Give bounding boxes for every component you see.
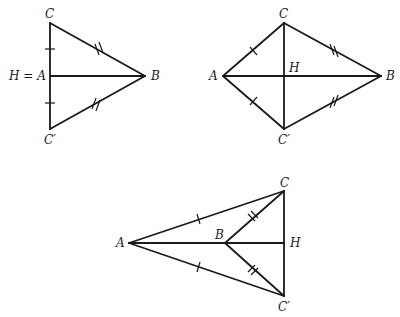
label-a: A — [208, 69, 218, 83]
segment-b-cprime — [225, 243, 284, 296]
figure-kite: C A H B C′ — [208, 7, 395, 147]
label-a: A — [115, 236, 125, 250]
segment-a-c — [129, 191, 284, 243]
label-b: B — [385, 69, 395, 83]
segment-cprime-b — [50, 76, 145, 129]
figure-dart: C A B H C′ — [115, 176, 301, 314]
label-c: C — [45, 7, 54, 21]
label-b: B — [214, 228, 224, 242]
segment-a-c — [223, 23, 284, 76]
label-h: H — [288, 61, 300, 75]
diagram-canvas: C H = A B C′ C A H B C′ — [0, 0, 400, 317]
label-c: C — [279, 7, 288, 21]
label-h: H — [289, 236, 301, 250]
label-c-prime: C′ — [278, 300, 290, 314]
label-c-prime: C′ — [44, 133, 56, 147]
label-c-prime: C′ — [278, 133, 290, 147]
figure-degenerate: C H = A B C′ — [8, 7, 160, 147]
label-c: C — [280, 176, 289, 190]
segment-a-cprime — [129, 243, 284, 296]
label-b: B — [150, 69, 160, 83]
label-h-equals-a: H = A — [8, 69, 46, 83]
segment-b-c — [225, 191, 284, 243]
segment-a-cprime — [223, 76, 284, 129]
